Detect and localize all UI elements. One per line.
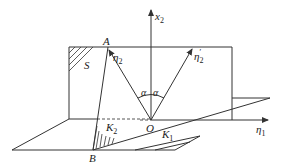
eta2-prime-label: η2′ [194, 48, 203, 65]
diagram: x2 η1 A B O S η2 η2′ K1 K2 α α [0, 0, 282, 167]
horizontal-plane [12, 98, 270, 150]
point-a-label: A [102, 35, 110, 47]
eta1-label: η1 [256, 123, 265, 138]
point-o-label: O [146, 122, 154, 134]
point-b-label: B [89, 152, 96, 164]
angle-alpha-right-label: α [153, 87, 159, 98]
region-s-label: S [84, 59, 90, 71]
eta2-prime-ray [151, 49, 192, 120]
region-k2-label: K2 [105, 121, 117, 136]
diagram-canvas: x2 η1 A B O S η2 η2′ K1 K2 α α [0, 0, 282, 167]
line-ab [93, 47, 108, 150]
region-k1-label: K1 [161, 128, 173, 143]
angle-alpha-left-label: α [141, 87, 147, 98]
eta2-label: η2 [113, 51, 122, 66]
x2-label: x2 [154, 10, 164, 25]
